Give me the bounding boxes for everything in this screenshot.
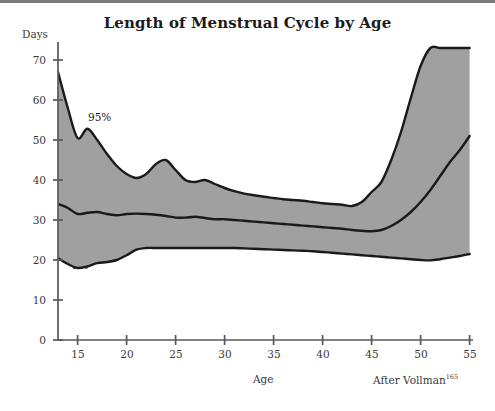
confidence-band (58, 47, 470, 268)
chart-plot-area (0, 0, 495, 411)
figure-container: Length of Menstrual Cycle by Age Days Ag… (0, 0, 495, 411)
